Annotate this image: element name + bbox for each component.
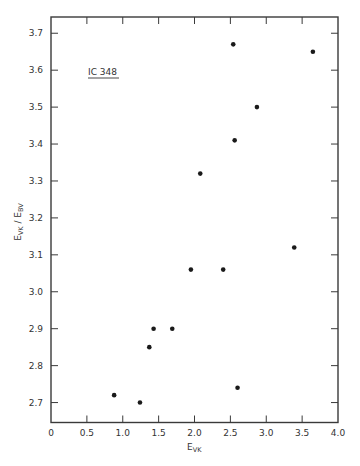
data-point xyxy=(138,400,143,405)
data-point xyxy=(232,138,237,143)
x-tick-label: 1.5 xyxy=(151,428,165,438)
annotation-text: IC 348 xyxy=(88,67,117,77)
x-tick-label: 4.0 xyxy=(331,428,346,438)
data-point xyxy=(231,42,236,47)
y-tick-label: 3.2 xyxy=(29,213,43,223)
y-tick-label: 3.0 xyxy=(29,287,44,297)
x-axis-label-text: EVK xyxy=(187,442,202,454)
x-tick-label: 3.5 xyxy=(295,428,309,438)
y-tick-label: 2.8 xyxy=(29,361,44,371)
data-point xyxy=(255,105,260,110)
data-points xyxy=(112,42,315,405)
x-axis-ticks: 00.51.01.52.02.53.03.54.0 xyxy=(48,17,345,438)
data-point xyxy=(221,267,226,272)
x-tick-label: 3.0 xyxy=(259,428,274,438)
y-tick-label: 3.4 xyxy=(29,139,44,149)
data-point xyxy=(235,385,240,390)
data-point xyxy=(198,171,203,176)
data-point xyxy=(189,267,194,272)
data-point xyxy=(112,393,117,398)
scatter-chart: 00.51.01.52.02.53.03.54.0 2.72.82.93.03.… xyxy=(0,0,360,466)
y-tick-label: 3.3 xyxy=(29,176,43,186)
chart-canvas: 00.51.01.52.02.53.03.54.0 2.72.82.93.03.… xyxy=(0,0,360,466)
annotation-label: IC 348 xyxy=(88,67,119,78)
x-axis-label-sub: VK xyxy=(193,446,202,454)
y-axis-label-den-sub: BV xyxy=(17,203,25,212)
y-axis-label: EVK / EBV xyxy=(13,203,25,241)
x-tick-label: 2.5 xyxy=(223,428,237,438)
data-point xyxy=(151,326,156,331)
data-point xyxy=(170,326,175,331)
y-tick-label: 2.9 xyxy=(29,324,44,334)
y-tick-label: 3.6 xyxy=(29,65,44,75)
data-point xyxy=(292,245,297,250)
y-tick-label: 3.1 xyxy=(29,250,43,260)
x-tick-label: 0.5 xyxy=(80,428,94,438)
x-tick-label: 0 xyxy=(48,428,54,438)
y-axis-ticks: 2.72.82.93.03.13.23.33.43.53.63.7 xyxy=(29,28,338,407)
y-axis-label-sep: / xyxy=(13,218,23,227)
y-axis-label-text: EVK / EBV xyxy=(13,203,25,241)
y-tick-label: 2.7 xyxy=(29,398,43,408)
y-tick-label: 3.7 xyxy=(29,28,43,38)
data-point xyxy=(147,345,152,350)
x-tick-label: 1.0 xyxy=(116,428,131,438)
y-tick-label: 3.5 xyxy=(29,102,43,112)
x-axis-label: EVK xyxy=(187,442,202,454)
data-point xyxy=(311,49,316,54)
x-tick-label: 2.0 xyxy=(187,428,202,438)
